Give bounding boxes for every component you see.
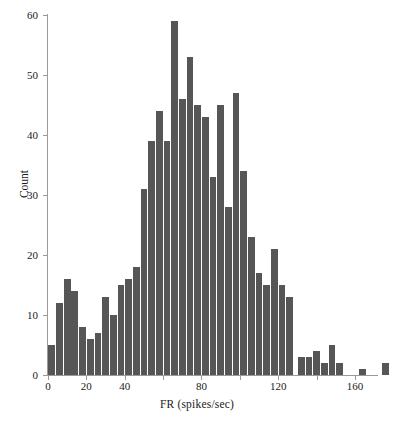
x-tick-label: 40 xyxy=(110,381,140,392)
y-tick-label: 10 xyxy=(4,310,38,321)
y-tick-mark xyxy=(43,15,47,16)
y-tick-mark xyxy=(43,135,47,136)
histogram-bar xyxy=(95,333,102,375)
y-tick-mark xyxy=(43,375,47,376)
histogram-bar xyxy=(382,363,389,375)
histogram-bar xyxy=(217,105,224,375)
histogram-bar xyxy=(64,279,71,375)
histogram-bar xyxy=(110,315,117,375)
x-tick-label: 160 xyxy=(340,381,370,392)
histogram-figure: 0102030405060 0204080120160 FR (spikes/s… xyxy=(0,0,394,421)
x-axis-line xyxy=(47,375,378,376)
histogram-bar xyxy=(286,297,293,375)
histogram-bar xyxy=(171,21,178,375)
y-tick-mark xyxy=(43,195,47,196)
histogram-bar xyxy=(148,141,155,375)
histogram-bar xyxy=(210,177,217,375)
histogram-bar xyxy=(179,99,186,375)
histogram-bar xyxy=(298,357,305,375)
y-tick-mark xyxy=(43,255,47,256)
histogram-bar xyxy=(48,345,55,375)
histogram-bar xyxy=(56,303,63,375)
histogram-bar xyxy=(313,351,320,375)
histogram-bar xyxy=(71,291,78,375)
histogram-bar xyxy=(240,171,247,375)
histogram-bar xyxy=(233,93,240,375)
y-axis-title: Count xyxy=(18,154,30,214)
histogram-bar xyxy=(321,363,328,375)
x-tick-label: 120 xyxy=(263,381,293,392)
x-tick-mark xyxy=(163,376,164,380)
histogram-bar xyxy=(133,267,140,375)
x-tick-mark xyxy=(240,376,241,380)
histogram-bar xyxy=(329,345,336,375)
plot-area xyxy=(48,15,378,375)
y-tick-label: 60 xyxy=(4,10,38,21)
histogram-bar xyxy=(248,237,255,375)
x-tick-label: 20 xyxy=(71,381,101,392)
histogram-bar xyxy=(164,141,171,375)
y-tick-label: 20 xyxy=(4,250,38,261)
histogram-bar xyxy=(263,285,270,375)
y-axis-line xyxy=(47,14,48,376)
histogram-bar xyxy=(87,339,94,375)
histogram-bar xyxy=(141,189,148,375)
histogram-bar xyxy=(306,357,313,375)
histogram-bar xyxy=(256,273,263,375)
histogram-bar xyxy=(102,297,109,375)
histogram-bar xyxy=(118,285,125,375)
y-tick-label: 0 xyxy=(4,370,38,381)
y-tick-label: 50 xyxy=(4,70,38,81)
histogram-bar xyxy=(125,279,132,375)
histogram-bar xyxy=(225,207,232,375)
histogram-bar xyxy=(279,285,286,375)
x-tick-label: 80 xyxy=(186,381,216,392)
y-tick-mark xyxy=(43,315,47,316)
y-tick-label: 40 xyxy=(4,130,38,141)
x-tick-mark xyxy=(317,376,318,380)
histogram-bar xyxy=(79,327,86,375)
x-tick-label: 0 xyxy=(33,381,63,392)
histogram-bar xyxy=(336,363,343,375)
histogram-bar xyxy=(271,249,278,375)
histogram-bar xyxy=(187,57,194,375)
bar-series xyxy=(48,15,378,375)
x-axis-title: FR (spikes/sec) xyxy=(0,398,394,410)
y-tick-mark xyxy=(43,75,47,76)
histogram-bar xyxy=(194,105,201,375)
histogram-bar xyxy=(156,111,163,375)
histogram-bar xyxy=(202,117,209,375)
